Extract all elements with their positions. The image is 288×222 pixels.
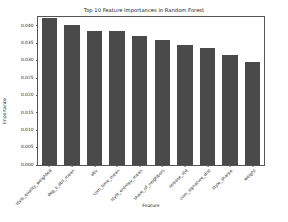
y-tick-label: 0.030 xyxy=(0,57,34,62)
plot-axes: 0.0000.0050.0100.0150.0200.0250.0300.035… xyxy=(37,16,265,166)
bar[interactable] xyxy=(87,31,102,165)
y-tick-label: 0.040 xyxy=(0,23,34,28)
y-tick-mark xyxy=(36,147,38,148)
bar[interactable] xyxy=(42,18,57,165)
y-tick-mark xyxy=(36,43,38,44)
x-tick-mark xyxy=(49,165,50,167)
bar-slot xyxy=(151,17,174,165)
bar-slot xyxy=(128,17,151,165)
bar[interactable] xyxy=(132,36,147,165)
y-tick-mark xyxy=(36,112,38,113)
y-tick-mark xyxy=(36,95,38,96)
bar[interactable] xyxy=(245,62,260,165)
x-axis-label: Feature xyxy=(37,203,265,208)
x-tick-label: style_sharpe xyxy=(211,168,234,191)
bar-series xyxy=(38,17,264,165)
y-tick-label: 0.000 xyxy=(0,162,34,167)
bar[interactable] xyxy=(200,48,215,165)
bar[interactable] xyxy=(222,55,237,165)
bar-slot xyxy=(219,17,242,165)
bar[interactable] xyxy=(177,45,192,165)
bar[interactable] xyxy=(155,40,170,165)
y-tick-label: 0.025 xyxy=(0,75,34,80)
y-tick-label: 0.020 xyxy=(0,92,34,97)
bar-slot xyxy=(106,17,129,165)
y-tick-label: 0.015 xyxy=(0,110,34,115)
x-tick-label: weight xyxy=(242,168,256,182)
y-tick-label: 0.005 xyxy=(0,144,34,149)
y-tick-label: 0.035 xyxy=(0,40,34,45)
bar-slot xyxy=(38,17,61,165)
x-tick-label: abv xyxy=(89,168,98,177)
x-tick-label: style_quality_weighted xyxy=(15,168,53,206)
y-tick-mark xyxy=(36,165,38,166)
y-tick-mark xyxy=(36,130,38,131)
bar-slot xyxy=(61,17,84,165)
bar[interactable] xyxy=(109,31,124,165)
y-tick-mark xyxy=(36,25,38,26)
bar[interactable] xyxy=(64,25,79,165)
matplotlib-figure: Top 10 Feature Importances in Random For… xyxy=(0,0,288,222)
y-tick-mark xyxy=(36,60,38,61)
x-tick-label: release_std xyxy=(168,168,189,189)
y-tick-label: 0.010 xyxy=(0,127,34,132)
bar-slot xyxy=(83,17,106,165)
bar-slot xyxy=(196,17,219,165)
bar-slot xyxy=(174,17,197,165)
plot-area: 0.0000.0050.0100.0150.0200.0250.0300.035… xyxy=(38,17,264,165)
y-tick-mark xyxy=(36,78,38,79)
chart-title: Top 10 Feature Importances in Random For… xyxy=(0,7,288,13)
bar-slot xyxy=(241,17,264,165)
